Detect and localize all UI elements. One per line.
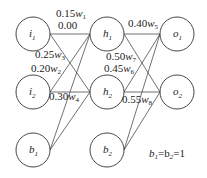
weight-label: 0.55w8 [122,93,153,107]
weight-label: 0.25w3 [35,48,66,62]
weight-label: 0.30w4 [49,90,80,104]
bias-note: b1=b2=1 [149,147,185,161]
nodes: i1i2b1h1h2b2o1o2 [16,17,194,167]
weight-label: 0.40w5 [128,17,159,31]
weight-label: 0.20w2 [31,62,62,76]
neural-network-diagram: i1i2b1h1h2b2o1o2 0.15w10.000.25w30.20w20… [0,0,207,178]
weight-label: 0.00 [58,19,78,31]
weight-label: 0.45w6 [104,62,135,76]
